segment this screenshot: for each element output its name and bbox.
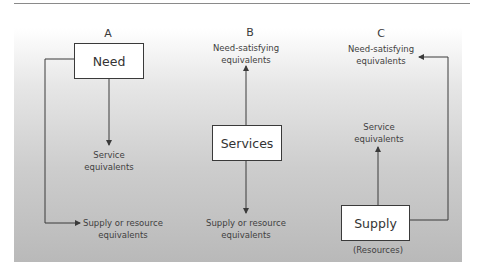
column-a-letter: A <box>98 27 118 40</box>
label-line: equivalents <box>341 55 421 67</box>
column-c-letter: C <box>371 27 391 40</box>
service-equivalents-label-a: Service equivalents <box>69 149 149 173</box>
need-box: Need <box>74 43 144 79</box>
label-line: Supply or resource <box>201 217 291 229</box>
label-line: equivalents <box>201 229 291 241</box>
label-line: equivalents <box>339 133 419 145</box>
label-line: Service <box>69 149 149 161</box>
label-line: equivalents <box>82 229 164 241</box>
services-box: Services <box>212 125 282 161</box>
label-line: Supply or resource <box>82 217 164 229</box>
need-satisfying-label-c: Need-satisfying equivalents <box>341 43 421 67</box>
column-b-letter: B <box>240 26 260 39</box>
label-line: Need-satisfying <box>206 42 286 54</box>
need-satisfying-label-b: Need-satisfying equivalents <box>206 42 286 66</box>
supply-box: Supply <box>341 205 410 241</box>
services-box-label: Services <box>221 136 274 151</box>
label-line: Need-satisfying <box>341 43 421 55</box>
supply-resource-label-a: Supply or resource equivalents <box>82 217 164 241</box>
supply-box-label: Supply <box>354 216 397 231</box>
label-line: equivalents <box>206 54 286 66</box>
label-line: equivalents <box>69 161 149 173</box>
service-equivalents-label-c: Service equivalents <box>339 121 419 145</box>
supply-resource-label-b: Supply or resource equivalents <box>201 217 291 241</box>
resources-caption: (Resources) <box>339 244 417 256</box>
need-to-supply-arrow <box>45 59 80 223</box>
need-box-label: Need <box>93 54 126 69</box>
label-line: Service <box>339 121 419 133</box>
